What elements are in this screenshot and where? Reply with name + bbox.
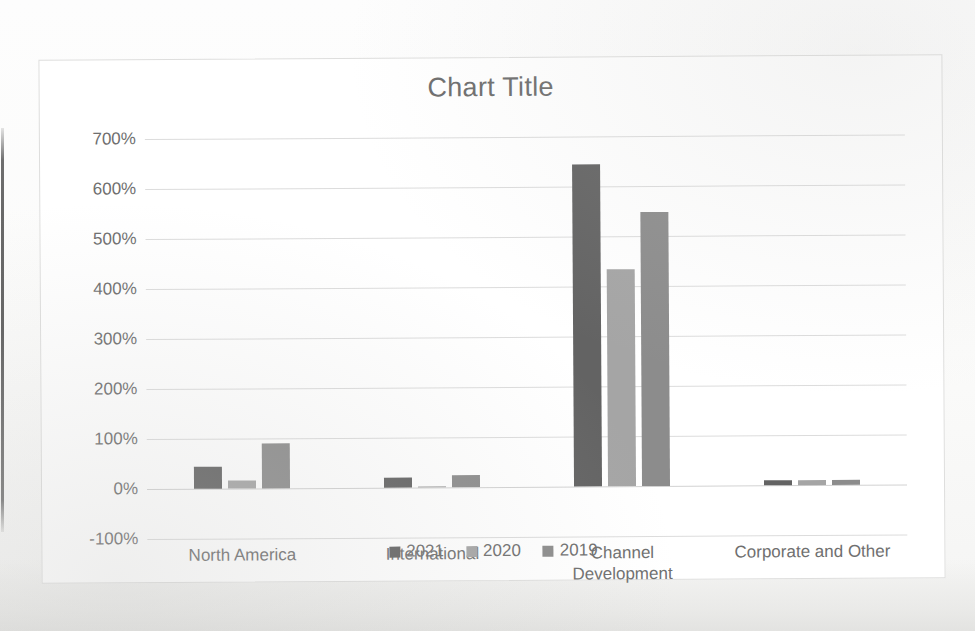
y-axis-tick-label: 400% bbox=[93, 279, 137, 299]
legend-item-2020[interactable]: 2020 bbox=[466, 541, 521, 561]
chart-object[interactable]: Chart Title 700%600%500%400%300%200%100%… bbox=[38, 54, 945, 584]
y-axis-tick-label: 300% bbox=[94, 329, 138, 349]
legend-label: 2021 bbox=[406, 541, 444, 561]
bar-2019[interactable] bbox=[262, 443, 290, 488]
y-axis-tick-label: 500% bbox=[93, 229, 137, 249]
bar-group: Corporate and Other bbox=[715, 134, 907, 535]
legend-label: 2019 bbox=[560, 540, 598, 560]
bar-2019[interactable] bbox=[832, 479, 860, 485]
bar-group: International bbox=[335, 137, 527, 538]
bar-2019[interactable] bbox=[452, 475, 480, 488]
bar-2021[interactable] bbox=[572, 164, 602, 487]
bar-2019[interactable] bbox=[640, 212, 670, 486]
bar-group: Channel Development bbox=[525, 136, 717, 537]
page-edge-artifact bbox=[1, 128, 4, 532]
y-axis-tick-label: 0% bbox=[113, 479, 138, 499]
bar-group: North America bbox=[145, 138, 337, 539]
bar-2020[interactable] bbox=[418, 486, 446, 488]
bar-2020[interactable] bbox=[228, 480, 256, 489]
bar-2021[interactable] bbox=[194, 466, 222, 489]
legend-swatch-icon bbox=[543, 545, 554, 556]
legend-label: 2020 bbox=[483, 541, 521, 561]
bar-series-layer: North AmericaInternationalChannel Develo… bbox=[145, 134, 907, 539]
y-axis-tick-label: 600% bbox=[93, 179, 137, 199]
bar-2021[interactable] bbox=[764, 480, 792, 486]
chart-title: Chart Title bbox=[39, 69, 941, 106]
plot-area: 700%600%500%400%300%200%100%0%-100% Nort… bbox=[145, 134, 907, 539]
legend-swatch-icon bbox=[389, 546, 400, 557]
bar-2020[interactable] bbox=[798, 479, 826, 485]
y-axis-tick-label: 200% bbox=[94, 379, 138, 399]
y-axis-tick-label: 100% bbox=[94, 429, 138, 449]
bar-2021[interactable] bbox=[384, 477, 412, 487]
y-axis-tick-label: 700% bbox=[92, 129, 136, 149]
legend-item-2021[interactable]: 2021 bbox=[389, 541, 444, 561]
bar-2020[interactable] bbox=[607, 269, 636, 487]
legend-swatch-icon bbox=[466, 546, 477, 557]
legend-item-2019[interactable]: 2019 bbox=[543, 540, 598, 560]
